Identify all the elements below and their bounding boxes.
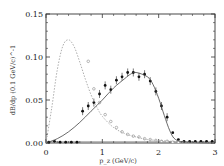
dashed-curve <box>46 40 215 143</box>
filled-data-point <box>126 71 129 74</box>
open-data-point <box>115 126 118 129</box>
filled-data-point <box>205 140 208 143</box>
filled-data-point <box>81 110 84 113</box>
filled-data-point <box>115 79 118 82</box>
filled-data-point <box>104 84 107 87</box>
x-tick-label: 2 <box>156 148 161 157</box>
y-axis-label: dB/dp (0.1 GeV/c)^-1 <box>9 45 17 115</box>
y-tick-label: 0.05 <box>25 96 43 105</box>
filled-data-point <box>59 141 62 144</box>
filled-data-point <box>166 116 169 119</box>
axis-ticks: 01230.000.050.100.15 <box>25 10 217 157</box>
filled-data-point <box>211 140 214 143</box>
x-tick-label: 0 <box>43 148 48 157</box>
filled-data-point <box>70 141 73 144</box>
filled-data-point <box>171 131 174 134</box>
plot-frame <box>46 14 215 143</box>
filled-data-point <box>138 75 141 78</box>
filled-data-point <box>121 75 124 78</box>
open-data-point <box>93 88 96 91</box>
y-tick-label: 0.10 <box>25 53 43 62</box>
x-tick-label: 3 <box>212 148 217 157</box>
open-data-point <box>109 120 112 123</box>
filled-data-point <box>76 141 79 144</box>
solid-curve <box>46 72 215 143</box>
open-data-point <box>87 60 90 63</box>
filled-data-point <box>64 141 67 144</box>
filled-data-point <box>98 93 101 96</box>
filled-data-point <box>87 105 90 108</box>
y-tick-label: 0.00 <box>25 139 43 148</box>
y-tick-label: 0.15 <box>25 10 43 19</box>
x-axis-label: p_z (GeV/c) <box>99 157 137 165</box>
x-tick-label: 1 <box>100 148 105 157</box>
plot-series <box>46 40 215 144</box>
open-data-point <box>104 113 107 116</box>
chart: 01230.000.050.100.15 p_z (GeV/c) dB/dp (… <box>0 0 224 166</box>
